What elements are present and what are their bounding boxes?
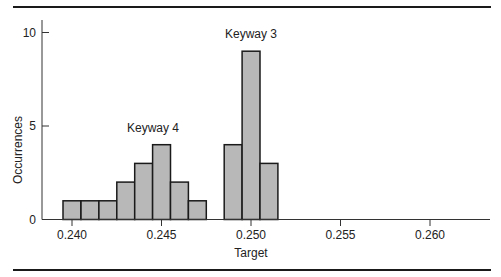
histogram-chart: 0510 0.2400.2450.2500.2550.260 Target Oc… (0, 0, 501, 277)
x-ticks: 0.2400.2450.2500.2550.260 (57, 220, 445, 243)
x-tick-label: 0.245 (146, 228, 176, 242)
histogram-bar (242, 51, 260, 219)
y-tick-label: 5 (29, 119, 36, 133)
histogram-bar (63, 201, 81, 220)
histogram-bar (117, 182, 135, 219)
x-tick-label: 0.240 (57, 228, 87, 242)
histogram-bar (260, 163, 278, 219)
y-axis-title: Occurrences (11, 116, 25, 184)
histogram-bar (188, 201, 206, 220)
histogram-bar (81, 201, 99, 220)
histogram-bar (171, 182, 189, 219)
histogram-bar (135, 163, 153, 219)
bars (63, 51, 278, 219)
histogram-bar (153, 145, 171, 220)
histogram-bar (99, 201, 117, 220)
y-tick-label: 10 (23, 26, 37, 40)
annotation-label: Keyway 4 (127, 121, 179, 135)
annotation-label: Keyway 3 (225, 27, 277, 41)
histogram-bar (224, 145, 242, 220)
x-tick-label: 0.250 (236, 228, 266, 242)
x-axis-title: Target (234, 246, 268, 260)
x-tick-label: 0.260 (415, 228, 445, 242)
y-tick-label: 0 (29, 213, 36, 227)
y-ticks: 0510 (23, 26, 49, 227)
x-tick-label: 0.255 (325, 228, 355, 242)
